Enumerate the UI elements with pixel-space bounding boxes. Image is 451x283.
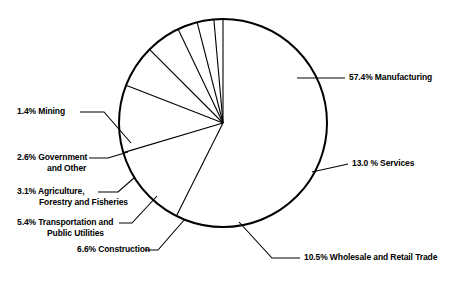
callout-government-line1: 2.6% Government bbox=[17, 152, 87, 162]
callout-wholesale-line1: 10.5% Wholesale and Retail Trade bbox=[304, 252, 437, 262]
callout-agriculture-line2: Forestry and Fisheries bbox=[17, 197, 128, 208]
callout-services: 13.0 % Services bbox=[352, 158, 414, 169]
pie-chart-canvas bbox=[0, 0, 451, 283]
callout-transportation: 5.4% Transportation and Public Utilities bbox=[17, 217, 113, 238]
callout-government: 2.6% Government and Other bbox=[17, 152, 87, 173]
callout-construction: 6.6% Construction bbox=[77, 244, 143, 255]
callout-transportation-line2: Public Utilities bbox=[17, 228, 113, 239]
leader-line-wholesale bbox=[239, 222, 300, 258]
leader-line-construction bbox=[145, 219, 185, 250]
callout-mining: 1.4% Mining bbox=[17, 106, 65, 117]
callout-construction-line1: 6.6% Construction bbox=[77, 244, 150, 254]
callout-manufacturing-line1: 57.4% Manufacturing bbox=[349, 72, 432, 82]
callout-wholesale: 10.5% Wholesale and Retail Trade bbox=[304, 252, 437, 263]
callout-agriculture-line1: 3.1% Agriculture, bbox=[17, 186, 84, 196]
callout-services-line1: 13.0 % Services bbox=[352, 158, 414, 168]
callout-government-line2: and Other bbox=[17, 163, 87, 174]
leader-line-government bbox=[89, 152, 128, 158]
callout-transportation-line1: 5.4% Transportation and bbox=[17, 217, 113, 227]
callout-manufacturing: 57.4% Manufacturing bbox=[349, 72, 432, 83]
pie-chart-figure: 57.4% Manufacturing 13.0 % Services 10.5… bbox=[0, 0, 451, 283]
callout-mining-line1: 1.4% Mining bbox=[17, 106, 65, 116]
callout-agriculture: 3.1% Agriculture, Forestry and Fisheries bbox=[17, 186, 128, 207]
